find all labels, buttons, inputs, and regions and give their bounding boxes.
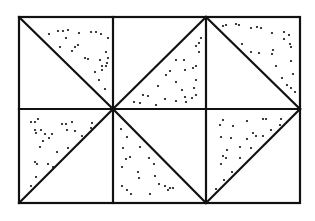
- diagonal-bottom-middle: [113, 109, 206, 203]
- stipple-bottom-left: [30, 118, 93, 187]
- triangle-grid-diagram: [0, 0, 315, 221]
- diagonal-top-middle: [113, 17, 206, 109]
- stipple-top-middle: [133, 37, 202, 106]
- diagonal-bottom-right: [206, 109, 300, 203]
- diagonal-top-right: [206, 17, 300, 109]
- diagonal-top-left: [19, 17, 113, 109]
- stipple-bottom-right: [215, 118, 282, 190]
- stipple-top-left: [48, 29, 109, 90]
- stipple-top-right: [222, 23, 296, 93]
